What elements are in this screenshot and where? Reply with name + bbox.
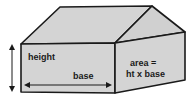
area-diagram: height base area = ht x base — [0, 0, 193, 98]
area-formula-line2: ht x base — [126, 69, 165, 79]
house-shape-diagram: height base area = ht x base — [0, 0, 193, 98]
height-arrow-icon — [9, 44, 15, 92]
area-formula-line1: area = — [130, 58, 156, 68]
height-label: height — [28, 52, 55, 62]
base-label: base — [73, 71, 94, 81]
